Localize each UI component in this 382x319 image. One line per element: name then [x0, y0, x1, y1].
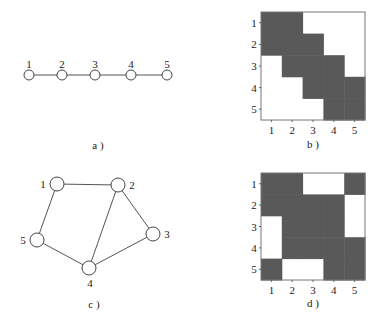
col-label: 2: [289, 284, 295, 296]
row-label: 4: [251, 242, 257, 254]
edge-1-2: [57, 184, 118, 185]
node-label: 4: [87, 277, 93, 289]
row-label: 2: [251, 199, 257, 211]
node-label: 2: [129, 179, 135, 191]
row-label: 1: [251, 178, 257, 190]
col-label: 5: [352, 124, 358, 136]
matrix-cell-filled: [323, 98, 344, 120]
node-1: [50, 177, 64, 191]
panel-c-graph: 1 2 3 4 5 c ): [20, 177, 170, 311]
row-label: 1: [251, 17, 257, 29]
row-label: 3: [251, 60, 257, 72]
node-4: [82, 261, 96, 275]
col-label: 3: [310, 124, 316, 136]
matrix-cell-filled: [261, 34, 282, 56]
matrix-cell-filled: [323, 77, 344, 99]
col-label: 3: [310, 284, 316, 296]
matrix-cell-filled: [344, 237, 365, 259]
row-label: 5: [251, 103, 257, 115]
col-label: 2: [289, 124, 295, 136]
node-label: 5: [164, 58, 170, 70]
matrix-cell-filled: [303, 77, 324, 99]
matrix-cell-filled: [282, 216, 303, 238]
figure: 1 2 3 4 5 a ) 1234512345b ) 1 2 3 4 5 c …: [0, 0, 382, 319]
row-label: 5: [251, 263, 257, 275]
row-label: 3: [251, 221, 257, 233]
matrix-cell-filled: [323, 216, 344, 238]
matrix-cell-filled: [303, 34, 324, 56]
matrix-cell-filled: [344, 77, 365, 99]
edge-1-5: [37, 184, 57, 240]
node-2: [57, 70, 67, 80]
matrix-cell-filled: [261, 194, 282, 216]
matrix-cell-filled: [261, 259, 282, 281]
matrix-cell-filled: [344, 173, 365, 195]
matrix-cell-filled: [282, 55, 303, 77]
row-label: 2: [251, 38, 257, 50]
matrix-cell-filled: [323, 259, 344, 281]
matrix-cell-filled: [344, 98, 365, 120]
row-label: 4: [251, 82, 257, 94]
node-label: 5: [20, 234, 26, 246]
panel-a-path-graph: 1 2 3 4 5 a ): [24, 58, 172, 152]
node-5: [30, 233, 44, 247]
node-label: 3: [164, 228, 170, 240]
node-3: [90, 70, 100, 80]
matrix-cell-filled: [323, 194, 344, 216]
edge-2-4: [89, 185, 118, 268]
matrix-cell-filled: [261, 12, 282, 34]
matrix-cell-filled: [282, 173, 303, 195]
col-label: 1: [269, 124, 275, 136]
col-label: 4: [331, 284, 337, 296]
node-label: 2: [59, 58, 65, 70]
col-label: 5: [352, 284, 358, 296]
node-label: 1: [40, 178, 46, 190]
caption-c: c ): [88, 298, 100, 311]
col-label: 4: [331, 124, 337, 136]
edge-2-3: [118, 185, 153, 234]
matrix-cell-filled: [323, 237, 344, 259]
caption-a: a ): [92, 139, 104, 152]
matrix-cell-filled: [282, 34, 303, 56]
matrix-cell-filled: [303, 216, 324, 238]
panel-b-matrix: 1234512345b ): [251, 12, 365, 151]
matrix-cell-filled: [303, 55, 324, 77]
node-label: 3: [92, 58, 98, 70]
node-2: [111, 178, 125, 192]
matrix-cell-filled: [323, 55, 344, 77]
matrix-cell-filled: [344, 259, 365, 281]
col-label: 1: [269, 284, 275, 296]
matrix-cell-filled: [282, 194, 303, 216]
node-5: [162, 70, 172, 80]
panel-d-matrix: 1234512345d ): [251, 173, 365, 310]
caption-b: b ): [307, 138, 319, 151]
node-label: 4: [128, 58, 134, 70]
matrix-cell-filled: [303, 194, 324, 216]
matrix-cell-filled: [261, 173, 282, 195]
edge-4-5: [37, 240, 89, 268]
node-1: [24, 70, 34, 80]
caption-d: d ): [307, 297, 319, 310]
node-4: [126, 70, 136, 80]
node-label: 1: [26, 58, 32, 70]
node-3: [146, 227, 160, 241]
matrix-cell-filled: [303, 237, 324, 259]
matrix-cell-filled: [282, 237, 303, 259]
matrix-cell-filled: [282, 12, 303, 34]
